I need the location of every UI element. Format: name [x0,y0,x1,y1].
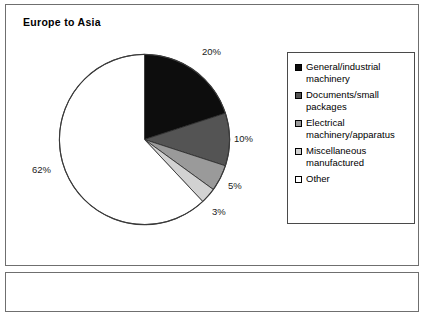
pie-data-label-miscellaneous-manufactured: 3% [212,206,226,217]
pie-data-label-electrical-machinery-apparatus: 5% [228,180,242,191]
legend-item-label: Electrical machinery/apparatus [306,117,408,140]
legend-item-label: General/industrial machinery [306,61,408,84]
chart-legend: General/industrial machineryDocuments/sm… [287,52,415,224]
legend-item-label: Other [306,173,330,185]
pie-data-label-general-industrial-machinery: 20% [202,46,221,57]
legend-item[interactable]: Documents/small packages [295,89,408,112]
page-title: Europe to Asia [23,16,101,28]
pie-data-label-other: 62% [32,164,51,175]
pie-slice-group [59,54,229,224]
legend-swatch-icon [295,120,302,127]
legend-item-label: Miscellaneous manufactured [306,145,408,168]
legend-item[interactable]: Miscellaneous manufactured [295,145,408,168]
legend-swatch-icon [295,92,302,99]
pie-chart [52,47,237,232]
legend-item[interactable]: Other [295,173,408,185]
secondary-panel [5,272,419,312]
legend-swatch-icon [295,176,302,183]
legend-swatch-icon [295,148,302,155]
pie-chart-svg [52,47,237,232]
pie-data-label-documents-small-packages: 10% [234,133,253,144]
legend-swatch-icon [295,64,302,71]
legend-item[interactable]: General/industrial machinery [295,61,408,84]
legend-item-label: Documents/small packages [306,89,408,112]
chart-panel: Europe to Asia 20% 10% 5% 3% 62% General… [5,4,419,266]
legend-item[interactable]: Electrical machinery/apparatus [295,117,408,140]
